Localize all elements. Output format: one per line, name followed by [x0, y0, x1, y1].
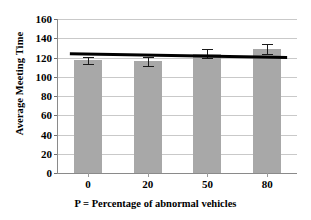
x-tick-label: 0	[85, 179, 91, 190]
x-tick-label: 20	[142, 179, 153, 190]
y-tick-label: 100	[36, 71, 53, 82]
x-tick-label: 80	[262, 179, 273, 190]
x-axis-line	[57, 173, 297, 174]
plot-area: 020406080100120140160 0205080	[58, 19, 297, 173]
y-tick-label: 140	[36, 33, 53, 44]
y-tick-label: 120	[36, 52, 53, 63]
chart-container: Average Meeting Time 0204060801001201401…	[0, 0, 311, 220]
x-tick-mark	[267, 173, 268, 177]
x-tick-mark	[88, 173, 89, 177]
y-tick-label: 80	[41, 91, 52, 102]
y-tick-label: 60	[41, 110, 52, 121]
y-tick-label: 40	[41, 129, 52, 140]
y-axis-title: Average Meeting Time	[14, 9, 25, 159]
x-tick-mark	[207, 173, 208, 177]
x-axis-title: P = Percentage of abnormal vehicles	[0, 198, 311, 209]
x-tick-mark	[148, 173, 149, 177]
trend-line-segment	[70, 54, 287, 58]
y-tick-label: 0	[47, 168, 53, 179]
trend-line	[58, 19, 297, 173]
y-tick-label: 160	[36, 14, 53, 25]
y-tick-label: 20	[41, 148, 52, 159]
x-tick-label: 50	[202, 179, 213, 190]
